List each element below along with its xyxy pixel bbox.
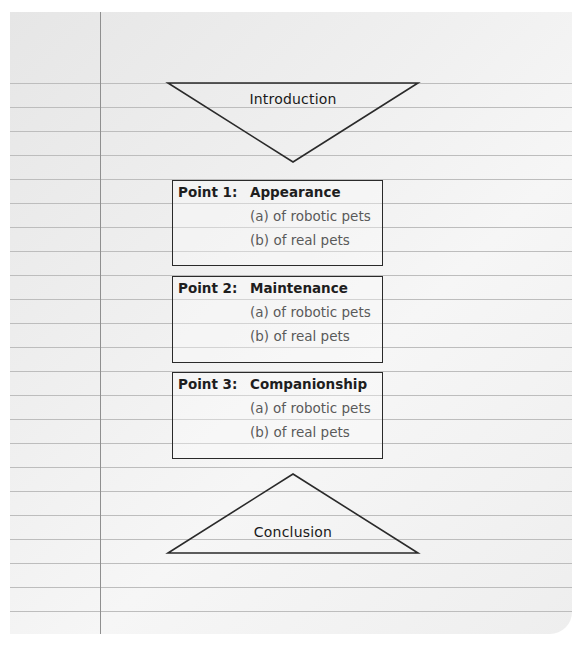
point-1-heading: Point 1:: [178, 184, 237, 200]
point-1-topic: Appearance: [250, 184, 341, 200]
introduction-label: Introduction: [193, 91, 393, 107]
point-3-box: Point 3: Companionship (a) of robotic pe…: [172, 372, 383, 459]
point-3-topic: Companionship: [250, 376, 367, 392]
point-3-subpoint-b: (b) of real pets: [250, 424, 350, 440]
point-2-heading: Point 2:: [178, 280, 237, 296]
conclusion-label: Conclusion: [193, 524, 393, 540]
point-2-box: Point 2: Maintenance (a) of robotic pets…: [172, 276, 383, 363]
conclusion-triangle: [168, 474, 418, 553]
point-2-topic: Maintenance: [250, 280, 348, 296]
point-3-heading: Point 3:: [178, 376, 237, 392]
point-3-subpoint-a: (a) of robotic pets: [250, 400, 371, 416]
point-1-subpoint-b: (b) of real pets: [250, 232, 350, 248]
point-2-subpoint-b: (b) of real pets: [250, 328, 350, 344]
point-2-subpoint-a: (a) of robotic pets: [250, 304, 371, 320]
point-1-box: Point 1: Appearance (a) of robotic pets …: [172, 180, 383, 266]
point-1-subpoint-a: (a) of robotic pets: [250, 208, 371, 224]
